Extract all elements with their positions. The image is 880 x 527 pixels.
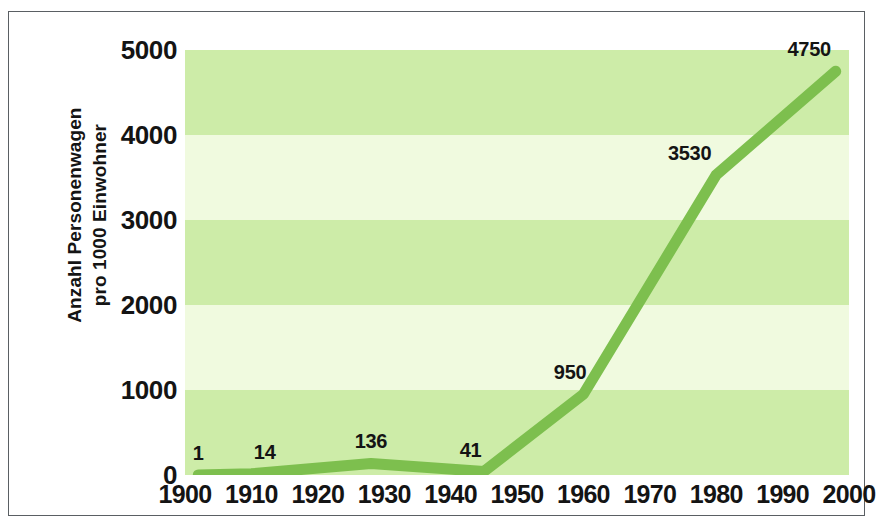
y-axis-tick-label: 5000 <box>87 37 177 63</box>
y-axis-title-line-1: Anzahl Personenwagen <box>62 75 87 355</box>
data-point-label: 1 <box>193 443 204 463</box>
data-point-label: 4750 <box>788 39 831 59</box>
y-axis-tick-label: 3000 <box>87 207 177 233</box>
data-point-labels: 1141364195035304750 <box>185 50 849 475</box>
data-point-label: 950 <box>554 362 586 382</box>
x-axis-tick-labels: 1900191019201930194019501960197019801990… <box>185 482 849 522</box>
data-point-label: 3530 <box>668 143 711 163</box>
x-axis-tick-label: 2000 <box>809 482 880 507</box>
y-axis-tick-label: 1000 <box>87 377 177 403</box>
y-axis-tick-labels: 010002000300040005000 <box>85 50 177 475</box>
chart-frame: Anzahl Personenwagen pro 1000 Einwohner … <box>8 11 865 516</box>
y-axis-tick-label: 2000 <box>87 292 177 318</box>
data-point-label: 14 <box>254 442 276 462</box>
data-point-label: 136 <box>355 431 387 451</box>
data-point-label: 41 <box>460 440 482 460</box>
y-axis-tick-label: 4000 <box>87 122 177 148</box>
